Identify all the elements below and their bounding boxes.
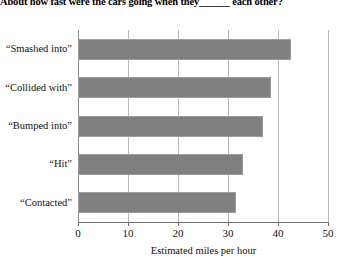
bar xyxy=(78,154,243,175)
category-label: “Bumped into” xyxy=(0,120,72,132)
category-label: “Contacted” xyxy=(0,197,72,209)
category-label: “Hit” xyxy=(0,158,72,170)
x-tick-label: 10 xyxy=(108,226,148,240)
x-tick-label: 30 xyxy=(208,226,248,240)
bar xyxy=(78,39,291,60)
x-axis-title: Estimated miles per hour xyxy=(78,244,329,257)
x-tick-label: 40 xyxy=(258,226,298,240)
x-tick-label: 50 xyxy=(308,226,344,240)
x-tick-label: 0 xyxy=(58,226,98,240)
bar xyxy=(78,77,271,98)
x-axis-line xyxy=(78,222,329,223)
category-label: “Smashed into” xyxy=(0,43,72,55)
gridline-50 xyxy=(328,30,329,222)
bar xyxy=(78,192,236,213)
bar xyxy=(78,116,263,137)
category-label: “Collided with” xyxy=(0,82,72,94)
page-title: About how fast were the cars going when … xyxy=(0,0,344,9)
bar-chart: Estimated miles per hour 01020304050“Sma… xyxy=(0,16,344,268)
x-tick-label: 20 xyxy=(158,226,198,240)
